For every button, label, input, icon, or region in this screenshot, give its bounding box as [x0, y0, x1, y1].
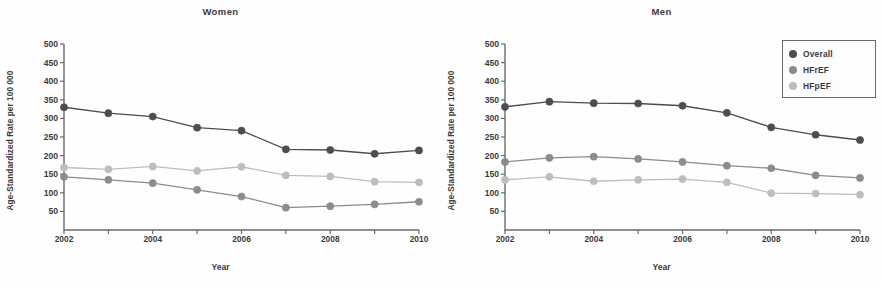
x-tick-label: 2002: [496, 234, 515, 244]
data-point-marker: [856, 136, 863, 143]
data-point-marker: [590, 100, 597, 107]
series-overall: [60, 104, 422, 158]
y-tick-label: 450: [471, 58, 499, 68]
y-tick-label: 450: [30, 58, 58, 68]
y-tick-label: 300: [471, 113, 499, 123]
x-tick-label: 2002: [55, 234, 74, 244]
data-point-marker: [768, 124, 775, 131]
x-axis-title-women: Year: [0, 262, 441, 272]
series-hfpef: [60, 163, 422, 186]
y-tick-label: 100: [471, 188, 499, 198]
plot-svg-women: [64, 44, 419, 230]
y-axis-title-women-text: Age-Standardized Rate per 100 000: [7, 70, 16, 210]
data-point-marker: [635, 176, 642, 183]
chart-legend: Overall HFrEF HFpEF: [782, 40, 876, 98]
data-point-marker: [679, 175, 686, 182]
data-point-marker: [856, 191, 863, 198]
data-point-marker: [238, 193, 245, 200]
x-tick-label: 2004: [584, 234, 603, 244]
series-line: [64, 177, 419, 208]
data-point-marker: [812, 131, 819, 138]
data-point-marker: [238, 127, 245, 134]
x-tick-label: 2010: [410, 234, 429, 244]
axis-spine: [64, 44, 419, 230]
data-point-marker: [194, 167, 201, 174]
data-point-marker: [768, 190, 775, 197]
y-tick-label: 150: [471, 169, 499, 179]
y-tick-label: 250: [471, 132, 499, 142]
data-point-marker: [501, 158, 508, 165]
plot-area-women: [64, 44, 419, 230]
data-point-marker: [768, 165, 775, 172]
data-point-marker: [60, 164, 67, 171]
y-tick-label: 200: [30, 151, 58, 161]
data-point-marker: [812, 190, 819, 197]
data-point-marker: [415, 179, 422, 186]
data-point-marker: [812, 172, 819, 179]
x-tick-label: 2010: [851, 234, 870, 244]
y-tick-label: 250: [30, 132, 58, 142]
data-point-marker: [679, 102, 686, 109]
y-tick-label: 350: [30, 95, 58, 105]
data-point-marker: [590, 153, 597, 160]
x-tick-label: 2006: [673, 234, 692, 244]
y-tick-label: 50: [30, 206, 58, 216]
legend-item-overall: Overall: [789, 46, 869, 62]
x-tick-label: 2004: [143, 234, 162, 244]
data-point-marker: [501, 103, 508, 110]
data-point-marker: [149, 113, 156, 120]
data-point-marker: [105, 166, 112, 173]
y-tick-label: 150: [30, 169, 58, 179]
y-tick-label: 400: [471, 76, 499, 86]
data-point-marker: [635, 100, 642, 107]
y-tick-labels-women: 50100150200250300350400450500: [30, 44, 58, 230]
legend-label-hfpef: HFpEF: [803, 81, 831, 91]
data-point-marker: [546, 154, 553, 161]
data-point-marker: [327, 203, 334, 210]
data-point-marker: [856, 174, 863, 181]
data-point-marker: [723, 179, 730, 186]
y-axis-title-women: Age-Standardized Rate per 100 000: [4, 40, 18, 240]
y-tick-labels-men: 50100150200250300350400450500: [471, 44, 499, 230]
circle-marker-icon: [789, 66, 797, 74]
data-point-marker: [282, 146, 289, 153]
data-point-marker: [723, 162, 730, 169]
data-point-marker: [635, 155, 642, 162]
y-tick-label: 300: [30, 113, 58, 123]
panel-title-women: Women: [0, 6, 441, 17]
legend-label-overall: Overall: [803, 49, 833, 59]
circle-marker-icon: [789, 82, 797, 90]
x-tick-label: 2008: [321, 234, 340, 244]
y-tick-label: 500: [30, 39, 58, 49]
chart-panel-women: Women Age-Standardized Rate per 100 000 …: [0, 0, 441, 287]
x-tick-label: 2006: [232, 234, 251, 244]
data-point-marker: [60, 104, 67, 111]
data-point-marker: [371, 150, 378, 157]
series-hfpef: [501, 173, 863, 198]
data-point-marker: [194, 186, 201, 193]
series-overall: [501, 98, 863, 144]
legend-item-hfpef: HFpEF: [789, 78, 869, 94]
data-point-marker: [327, 146, 334, 153]
data-point-marker: [282, 204, 289, 211]
data-point-marker: [149, 180, 156, 187]
data-point-marker: [105, 176, 112, 183]
circle-marker-icon: [789, 50, 797, 58]
y-tick-label: 500: [471, 39, 499, 49]
x-tick-label: 2008: [762, 234, 781, 244]
data-point-marker: [371, 201, 378, 208]
data-point-marker: [371, 178, 378, 185]
data-point-marker: [194, 124, 201, 131]
data-point-marker: [327, 173, 334, 180]
data-point-marker: [415, 147, 422, 154]
data-point-marker: [679, 158, 686, 165]
legend-item-hfref: HFrEF: [789, 62, 869, 78]
y-tick-label: 350: [471, 95, 499, 105]
data-point-marker: [546, 98, 553, 105]
data-point-marker: [105, 110, 112, 117]
y-tick-label: 50: [471, 206, 499, 216]
data-point-marker: [546, 173, 553, 180]
data-point-marker: [501, 176, 508, 183]
data-point-marker: [238, 163, 245, 170]
x-axis-title-men: Year: [441, 262, 882, 272]
